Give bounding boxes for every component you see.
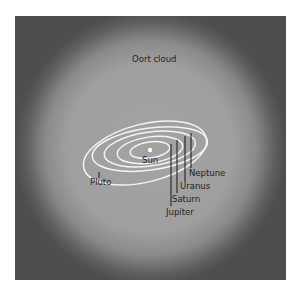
solar-system-diagram: Oort cloud Sun Jupiter Saturn Uranus Nep… <box>15 16 286 280</box>
sun-dot <box>148 148 152 152</box>
oort-cloud-label: Oort cloud <box>132 54 176 64</box>
sun-label: Sun <box>142 155 158 165</box>
neptune-label: Neptune <box>189 168 225 178</box>
uranus-label: Uranus <box>180 181 211 191</box>
oort-cloud-panel: Oort cloud Sun Jupiter Saturn Uranus Nep… <box>15 16 286 280</box>
jupiter-label: Jupiter <box>165 207 194 217</box>
pluto-label: Pluto <box>90 177 111 187</box>
saturn-label: Saturn <box>172 194 200 204</box>
